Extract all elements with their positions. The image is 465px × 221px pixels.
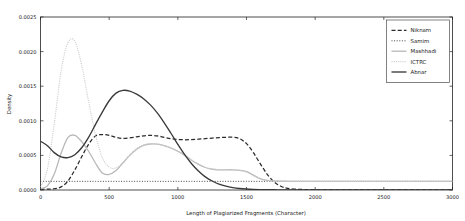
y-axis-title: Density xyxy=(6,93,13,114)
legend-label-abnar: Abnar xyxy=(411,69,428,75)
x-tick-label: 2000 xyxy=(309,194,322,200)
y-tick-label: 0.0015 xyxy=(19,83,37,89)
density-plot-figure: 050010001500200025003000 0.00000.00050.0… xyxy=(0,0,465,221)
x-tick-label: 0 xyxy=(39,194,42,200)
series-line-abnar xyxy=(41,90,453,190)
legend-label-samim: Samim xyxy=(411,38,430,44)
legend-label-ictrc: ICTRC xyxy=(411,59,427,65)
chart-legend[interactable]: NiknamSamimMashhadiICTRCAbnar xyxy=(387,20,450,82)
y-tick-label: 0.0020 xyxy=(19,49,37,55)
y-tick-label: 0.0010 xyxy=(19,118,37,124)
y-tick-label: 0.0025 xyxy=(19,14,37,20)
y-tick-label: 0.0005 xyxy=(19,152,37,158)
x-axis-title: Length of Plagiarized Fragments (Charact… xyxy=(186,210,306,217)
legend-label-niknam: Niknam xyxy=(411,27,432,33)
x-tick-label: 500 xyxy=(104,194,114,200)
x-tick-label: 3000 xyxy=(446,194,459,200)
chart-canvas: 050010001500200025003000 0.00000.00050.0… xyxy=(0,0,465,221)
x-tick-label: 2500 xyxy=(377,194,390,200)
x-tick-label: 1500 xyxy=(240,194,253,200)
x-tick-label: 1000 xyxy=(171,194,184,200)
y-tick-label: 0.0000 xyxy=(19,187,37,193)
legend-label-mashhadi: Mashhadi xyxy=(411,48,437,54)
